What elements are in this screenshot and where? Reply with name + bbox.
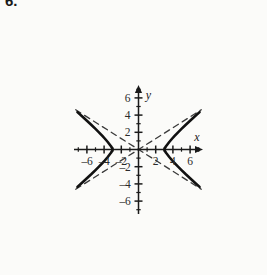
y-axis-label: y <box>145 88 152 102</box>
x-tick-label: –6 <box>80 155 92 167</box>
x-tick-label: 6 <box>187 155 193 167</box>
x-tick-label: 4 <box>170 155 176 167</box>
x-axis-label: x <box>193 130 200 144</box>
y-tick-label: 6 <box>125 92 131 104</box>
y-tick-label: 2 <box>125 126 131 138</box>
y-tick-label: –6 <box>119 195 131 207</box>
axis-group <box>74 85 203 214</box>
x-tick-label: –4 <box>98 155 110 167</box>
coordinate-plane-plot: –6–4–2246642–2–4–6 xy <box>0 0 267 275</box>
y-tick-label: –4 <box>119 178 131 190</box>
hyperbola-figure: 6. –6–4–2246642–2–4–6 xy <box>0 0 267 275</box>
y-tick-label: –2 <box>119 161 131 173</box>
y-tick-label: 4 <box>125 109 131 121</box>
x-tick-label: 2 <box>153 155 159 167</box>
